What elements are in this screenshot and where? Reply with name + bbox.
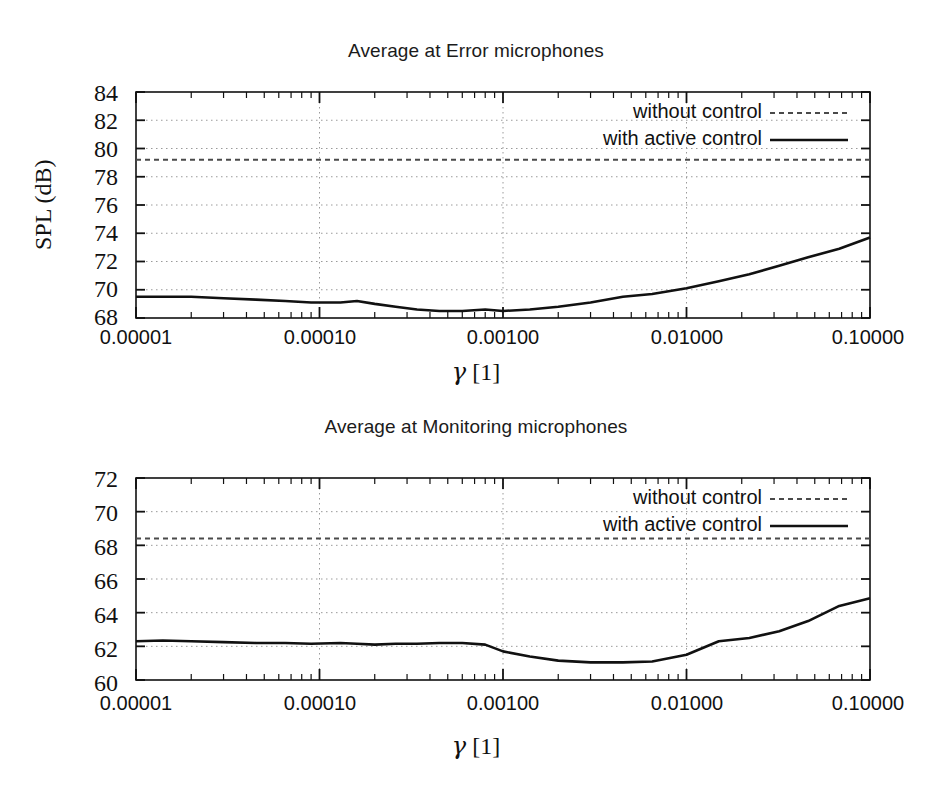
chart-panel-monitoring-microphones: Average at Monitoring microphones SPL (d…: [0, 392, 952, 792]
series-with-active-control: [136, 598, 870, 662]
plot-area-error: [0, 0, 952, 400]
series-with-active-control: [136, 237, 870, 310]
plot-area-monitoring: [0, 392, 952, 792]
chart-panel-error-microphones: Average at Error microphones SPL (dB) 84…: [0, 0, 952, 400]
figure-spl-vs-gamma: Average at Error microphones SPL (dB) 84…: [0, 0, 952, 792]
